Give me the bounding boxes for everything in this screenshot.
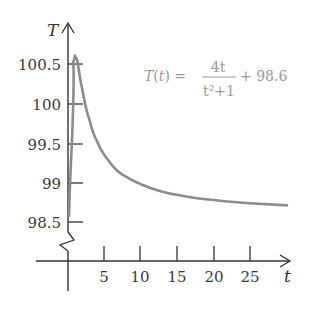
svg-text:25: 25: [240, 268, 259, 286]
svg-text:20: 20: [204, 268, 223, 286]
svg-text:15: 15: [167, 268, 186, 286]
formula-annotation: T(t) = 4t t²+1 + 98.6: [144, 59, 287, 99]
svg-text:4t: 4t: [211, 59, 226, 75]
chart-canvas: T 100.5 100 99.5 99 98.5 t 5 10 15 20 25…: [0, 0, 322, 312]
svg-text:100.5: 100.5: [18, 56, 61, 74]
svg-text:t²+1: t²+1: [203, 83, 235, 99]
svg-text:10: 10: [130, 268, 149, 286]
svg-text:98.5: 98.5: [28, 214, 61, 232]
svg-text:100: 100: [32, 96, 61, 114]
svg-text:5: 5: [99, 268, 109, 286]
x-ticks: [104, 246, 250, 261]
y-axis-break-icon: [60, 232, 74, 251]
y-axis-title: T: [47, 20, 60, 40]
x-tick-labels: 5 10 15 20 25: [99, 268, 259, 286]
svg-text:T(t) =: T(t) =: [144, 68, 186, 84]
x-axis-title: t: [284, 266, 291, 286]
svg-text:99: 99: [42, 175, 61, 193]
y-tick-labels: 100.5 100 99.5 99 98.5: [18, 56, 61, 232]
svg-text:99.5: 99.5: [28, 136, 61, 154]
svg-text:+ 98.6: + 98.6: [240, 68, 287, 84]
